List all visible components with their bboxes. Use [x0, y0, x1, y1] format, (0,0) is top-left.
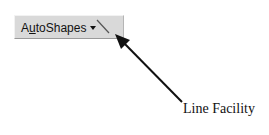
line-facility-label: Line Facility	[183, 101, 255, 117]
